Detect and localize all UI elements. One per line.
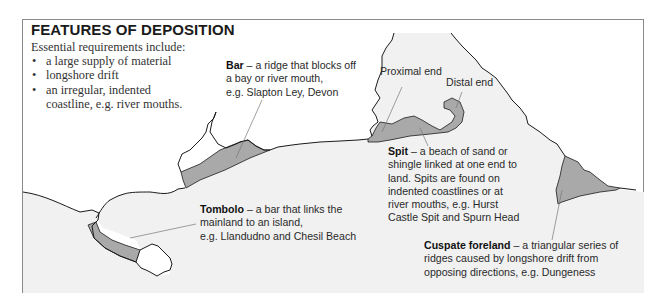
cuspate-foreland-label: Cuspate foreland – a triangular series o…: [424, 239, 618, 279]
requirements-box: Essential requirements include: •a large…: [31, 40, 185, 111]
requirements-lead: Essential requirements include:: [31, 40, 185, 54]
page-title: FEATURES OF DEPOSITION: [31, 21, 235, 38]
distal-end-label: Distal end: [446, 76, 493, 89]
requirement-item: •an irregular, indentedcoastline, e.g. r…: [31, 83, 185, 111]
requirement-item: •longshore drift: [31, 68, 185, 82]
bullet-icon: •: [32, 83, 36, 97]
requirement-item: •a large supply of material: [31, 54, 185, 68]
bar-label: Bar – a ridge that blocks off a bay or r…: [226, 59, 356, 99]
bullet-icon: •: [32, 54, 36, 68]
requirements-list: •a large supply of material •longshore d…: [31, 54, 185, 111]
bullet-icon: •: [32, 68, 36, 82]
spit-label: Spit – a beach of sand or shingle linked…: [388, 145, 519, 225]
proximal-end-label: Proximal end: [380, 65, 442, 78]
tombolo-label: Tombolo – a bar that links the mainland …: [200, 203, 356, 243]
